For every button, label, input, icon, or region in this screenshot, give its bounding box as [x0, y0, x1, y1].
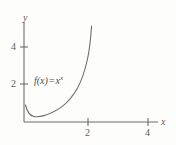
x-axis-tick-label-4: 4	[145, 128, 150, 138]
equals-sign: =	[48, 75, 56, 86]
function-curve	[26, 26, 92, 117]
function-equation-annotation: f(x)=xx	[34, 75, 63, 86]
x-axis-label: x	[161, 117, 165, 127]
function-exponent-text: x	[60, 74, 63, 82]
y-axis-tick-label-4: 4	[11, 42, 16, 52]
x-axis-tick-label-2: 2	[85, 128, 90, 138]
function-name-text: f(x)	[34, 75, 48, 86]
y-axis-tick-label-2: 2	[11, 79, 16, 89]
function-plot-figure: 4 2 2 4 y x f(x)=xx	[0, 0, 176, 145]
y-axis-label: y	[23, 13, 27, 23]
